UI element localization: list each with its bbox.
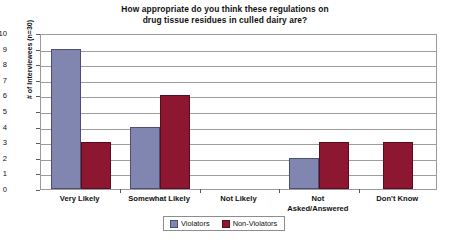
chart-title-line-1: How appropriate do you think these regul… bbox=[60, 4, 390, 15]
bar-group bbox=[279, 35, 358, 189]
bar-violators bbox=[130, 127, 160, 189]
y-tick-label: 0 bbox=[0, 185, 7, 194]
y-tick-label: 4 bbox=[0, 123, 7, 132]
x-tick-label: Very Likely bbox=[40, 194, 119, 204]
bar-chart: How appropriate do you think these regul… bbox=[0, 0, 450, 242]
y-tick-mark bbox=[36, 190, 40, 191]
x-tick-label: NotAsked/Answered bbox=[278, 194, 357, 214]
legend-label-non-violators: Non-Violators bbox=[233, 219, 278, 228]
x-tick-label: Don't Know bbox=[358, 194, 437, 204]
y-tick-label: 5 bbox=[0, 107, 7, 116]
category-separator bbox=[200, 189, 201, 193]
bar-violators bbox=[289, 158, 319, 189]
y-axis-title: # of Interviewees (n=30) bbox=[26, 0, 33, 120]
y-tick-label: 3 bbox=[0, 138, 7, 147]
bar-non-violators bbox=[319, 142, 349, 189]
plot-area bbox=[40, 34, 437, 190]
y-tick-label: 9 bbox=[0, 45, 7, 54]
chart-title: How appropriate do you think these regul… bbox=[60, 4, 390, 26]
bars-layer bbox=[41, 35, 436, 189]
bar-non-violators bbox=[81, 142, 111, 189]
bar-non-violators bbox=[383, 142, 413, 189]
bar-non-violators bbox=[160, 95, 190, 189]
x-tick-label: Not Likely bbox=[199, 194, 278, 204]
bar-group bbox=[120, 35, 199, 189]
legend-item-non-violators: Non-Violators bbox=[222, 219, 278, 228]
x-tick-label-line: Not Likely bbox=[199, 194, 278, 204]
x-tick-label: Somewhat Likely bbox=[119, 194, 198, 204]
legend-label-violators: Violators bbox=[181, 219, 210, 228]
x-tick-label-line: Very Likely bbox=[40, 194, 119, 204]
legend-item-violators: Violators bbox=[170, 219, 210, 228]
x-tick-label-line: Asked/Answered bbox=[278, 204, 357, 214]
y-tick-label: 8 bbox=[0, 60, 7, 69]
y-tick-label: 7 bbox=[0, 76, 7, 85]
x-tick-label-line: Not bbox=[278, 194, 357, 204]
bar-group bbox=[200, 35, 279, 189]
y-tick-label: 10 bbox=[0, 29, 7, 38]
category-separator bbox=[120, 189, 121, 193]
category-separator bbox=[279, 189, 280, 193]
x-tick-label-line: Somewhat Likely bbox=[119, 194, 198, 204]
y-tick-label: 6 bbox=[0, 91, 7, 100]
bar-group bbox=[41, 35, 120, 189]
x-tick-label-line: Don't Know bbox=[358, 194, 437, 204]
bar-violators bbox=[51, 49, 81, 189]
category-separator bbox=[359, 189, 360, 193]
y-tick-label: 1 bbox=[0, 169, 7, 178]
legend-swatch-non-violators-icon bbox=[222, 220, 230, 228]
bar-group bbox=[359, 35, 438, 189]
y-tick-label: 2 bbox=[0, 154, 7, 163]
chart-title-line-2: drug tissue residues in culled dairy are… bbox=[60, 15, 390, 26]
legend-swatch-violators-icon bbox=[170, 220, 178, 228]
chart-legend: Violators Non-Violators bbox=[163, 216, 285, 231]
